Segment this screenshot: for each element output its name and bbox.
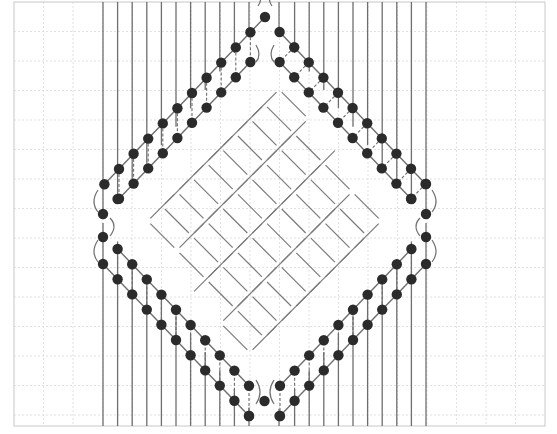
weave-segment: [180, 194, 204, 218]
loop-arc: [110, 218, 114, 236]
weave-segment: [282, 267, 306, 291]
bead: [406, 194, 416, 204]
bead: [185, 350, 195, 360]
bead: [200, 335, 210, 345]
bead: [158, 148, 168, 158]
weave-segment: [282, 151, 306, 175]
weave-segment: [253, 297, 277, 321]
weave-segment: [311, 180, 335, 204]
bead: [333, 320, 343, 330]
weave-segment: [165, 209, 189, 233]
bead: [289, 42, 299, 52]
bead: [391, 148, 401, 158]
bead: [201, 73, 211, 83]
bead: [98, 209, 108, 219]
bead: [187, 118, 197, 128]
weave-segment: [209, 165, 233, 189]
corner-loops: [94, 0, 436, 404]
bead: [244, 411, 254, 421]
bead: [171, 335, 181, 345]
weave-segment: [340, 209, 364, 233]
bead: [391, 178, 401, 188]
bead: [377, 274, 387, 284]
beads: [98, 12, 431, 421]
bead: [347, 103, 357, 113]
bead: [319, 335, 329, 345]
bead: [392, 259, 402, 269]
bead: [377, 133, 387, 143]
bead: [231, 72, 241, 82]
bead: [377, 163, 387, 173]
bead: [216, 87, 226, 97]
bead: [406, 244, 416, 254]
bead: [229, 396, 239, 406]
loop-arc: [416, 218, 420, 236]
bead: [216, 57, 226, 67]
bead: [362, 320, 372, 330]
weave-segment: [194, 238, 218, 262]
vertical-threads: [103, 2, 426, 426]
bead: [319, 365, 329, 375]
bead: [127, 259, 137, 269]
weave-segment: [150, 224, 174, 248]
bead: [421, 209, 431, 219]
bead: [362, 289, 372, 299]
loop-arc: [256, 45, 259, 62]
bead: [158, 118, 168, 128]
bead: [348, 305, 358, 315]
bead: [112, 194, 122, 204]
bead: [421, 179, 431, 189]
weave-segment: [253, 121, 277, 145]
bead: [406, 164, 416, 174]
weave-segment: [282, 209, 306, 233]
bead: [362, 148, 372, 158]
weave-segment: [238, 253, 262, 277]
weave-segment: [296, 136, 320, 160]
bead: [259, 396, 269, 406]
bead: [362, 118, 372, 128]
bead: [156, 289, 166, 299]
bead: [244, 381, 254, 391]
bead: [112, 274, 122, 284]
bead: [304, 380, 314, 390]
bead: [289, 72, 299, 82]
weave-segment: [253, 238, 277, 262]
bead: [143, 133, 153, 143]
bead: [275, 381, 285, 391]
weave-segment: [326, 224, 350, 248]
bead: [421, 232, 431, 242]
bead: [143, 163, 153, 173]
bead: [112, 244, 122, 254]
loop-arc: [94, 240, 98, 262]
bead: [304, 87, 314, 97]
bead: [289, 365, 299, 375]
bead: [127, 289, 137, 299]
bead: [304, 350, 314, 360]
bead: [187, 88, 197, 98]
bead: [142, 304, 152, 314]
weave-segment: [223, 151, 247, 175]
bead: [229, 365, 239, 375]
weave-segment: [180, 253, 204, 277]
bead: [260, 12, 270, 22]
bead: [98, 259, 108, 269]
bead: [333, 118, 343, 128]
bead: [274, 411, 284, 421]
bead: [318, 102, 328, 112]
bead: [200, 365, 210, 375]
bead: [318, 72, 328, 82]
bead: [377, 304, 387, 314]
bead: [185, 320, 195, 330]
bead: [142, 274, 152, 284]
diagram-canvas: [0, 0, 557, 434]
bead: [171, 305, 181, 315]
macrame-diagram: [0, 0, 557, 434]
bead: [231, 42, 241, 52]
bead: [333, 350, 343, 360]
bead: [98, 232, 108, 242]
loop-arc: [271, 45, 274, 62]
bead: [156, 320, 166, 330]
bead: [274, 57, 284, 67]
weave-segment: [253, 180, 277, 204]
bead: [304, 57, 314, 67]
